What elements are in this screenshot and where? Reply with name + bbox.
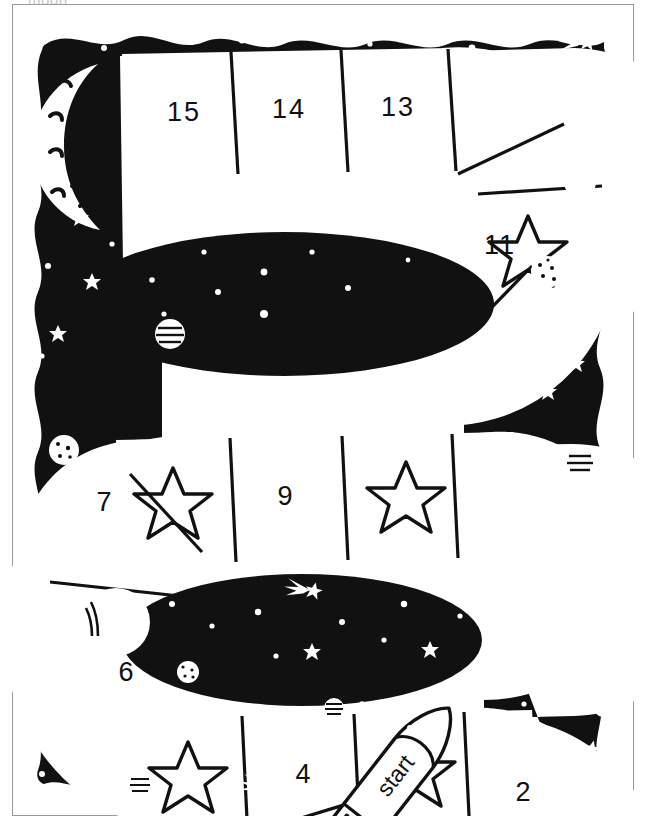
board-canvas: 15 14 13 11 9 7 6 4 2 1 [12, 4, 634, 816]
planet-dotted-bottom [177, 661, 199, 683]
cell-label-13: 13 [381, 92, 415, 122]
planet-dotted-right [531, 256, 563, 288]
board-game-page: moon [0, 0, 649, 838]
planet-striped-bottom-left [129, 773, 151, 795]
planet-striped-right [566, 448, 594, 476]
cell-label-6: 6 [118, 657, 135, 687]
cell-label-7: 7 [96, 487, 113, 517]
cell-label-2: 2 [515, 777, 532, 807]
planet-dotted-left [49, 435, 79, 465]
cell-label-11: 11 [484, 230, 516, 260]
cell-label-15: 15 [167, 97, 201, 127]
planet-striped-small-left [155, 319, 185, 349]
cell-label-4: 4 [295, 759, 312, 789]
planet-big-bottom-left [82, 588, 150, 656]
cell-label-9: 9 [277, 481, 294, 511]
planet-striped-bottom-center [324, 698, 344, 718]
cell-label-14: 14 [272, 94, 306, 124]
